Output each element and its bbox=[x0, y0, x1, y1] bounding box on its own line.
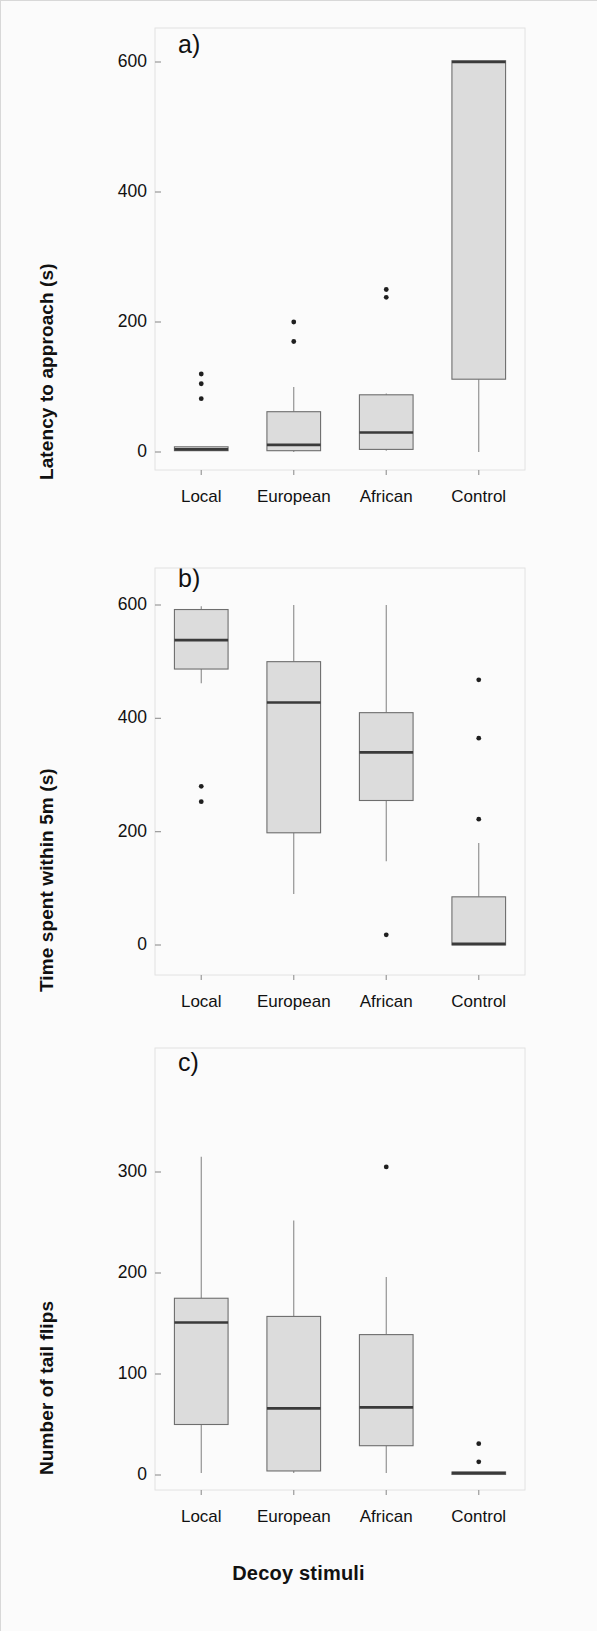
y-tick-label: 300 bbox=[63, 1161, 147, 1182]
x-category-label: Control bbox=[433, 1507, 526, 1527]
y-tick-label: 0 bbox=[63, 1464, 147, 1485]
y-tick-label: 200 bbox=[63, 821, 147, 842]
figure-canvas: Latency to approach (s) a) 0200400600Loc… bbox=[0, 0, 597, 1631]
y-tick-label: 200 bbox=[63, 311, 147, 332]
panel-c: Number of tail flips c) 0100200300LocalE… bbox=[0, 1020, 597, 1550]
x-category-label: European bbox=[248, 487, 341, 507]
x-category-label: Local bbox=[155, 1507, 248, 1527]
y-tick-label: 400 bbox=[63, 181, 147, 202]
x-category-label: African bbox=[340, 487, 433, 507]
y-tick-label: 400 bbox=[63, 707, 147, 728]
x-category-label: European bbox=[248, 992, 341, 1012]
y-tick-label: 0 bbox=[63, 934, 147, 955]
x-category-label: African bbox=[340, 1507, 433, 1527]
panel-b: Time spent within 5m (s) b) 0200400600Lo… bbox=[0, 520, 597, 1020]
x-category-label: Local bbox=[155, 992, 248, 1012]
y-tick-label: 100 bbox=[63, 1363, 147, 1384]
x-category-label: Control bbox=[433, 487, 526, 507]
y-tick-label: 600 bbox=[63, 51, 147, 72]
y-tick-label: 200 bbox=[63, 1262, 147, 1283]
x-axis-title: Decoy stimuli bbox=[0, 1562, 597, 1585]
x-category-label: African bbox=[340, 992, 433, 1012]
y-tick-label: 0 bbox=[63, 441, 147, 462]
x-category-label: Control bbox=[433, 992, 526, 1012]
panel-a: Latency to approach (s) a) 0200400600Loc… bbox=[0, 0, 597, 520]
y-tick-label: 600 bbox=[63, 594, 147, 615]
x-category-label: European bbox=[248, 1507, 341, 1527]
x-category-label: Local bbox=[155, 487, 248, 507]
